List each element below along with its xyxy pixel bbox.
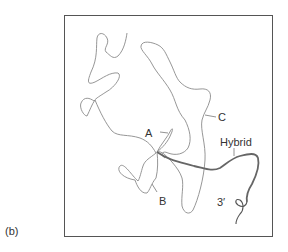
label-c: C	[218, 111, 226, 123]
label-a: A	[145, 127, 153, 139]
leader-c	[205, 115, 216, 117]
leader-b	[152, 184, 157, 192]
strand-diagram: A B C Hybrid 3′	[0, 0, 288, 252]
strand-hybrid	[157, 152, 259, 202]
strand-left	[81, 33, 158, 193]
leader-a	[160, 132, 168, 133]
label-3-prime: 3′	[217, 196, 225, 208]
label-hybrid: Hybrid	[220, 136, 252, 148]
label-b: B	[159, 195, 166, 207]
strand-3prime-end	[236, 199, 247, 224]
